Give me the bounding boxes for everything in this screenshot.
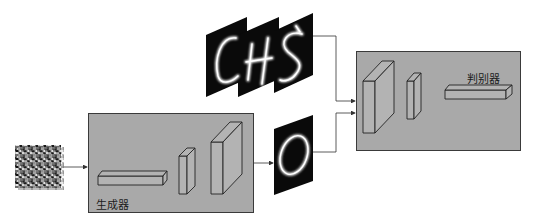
discriminator-layer-dense bbox=[445, 85, 512, 99]
diagram-graphics bbox=[0, 0, 533, 223]
generator-layer-conv1 bbox=[179, 148, 195, 194]
arrow-real-to-discriminator bbox=[313, 36, 355, 101]
generated-sample-image bbox=[274, 115, 313, 195]
noise-image bbox=[15, 145, 64, 190]
generator-layer-conv2 bbox=[211, 122, 242, 194]
discriminator-layer-conv1 bbox=[363, 61, 394, 133]
generator-layer-dense bbox=[98, 171, 167, 185]
gan-diagram: 生成器 判别器 bbox=[0, 0, 533, 223]
discriminator-layer-conv2 bbox=[407, 73, 421, 119]
real-samples-images bbox=[206, 13, 313, 97]
arrow-fake-to-discriminator bbox=[313, 113, 355, 152]
